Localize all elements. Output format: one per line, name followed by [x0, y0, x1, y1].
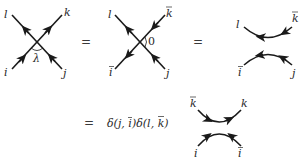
arrow-icon: [50, 56, 55, 62]
arrow-icon: [153, 23, 158, 29]
diagram-canvas: l k i j λ = l k i j 0 = l k: [0, 0, 304, 160]
arrow-icon: [45, 28, 50, 33]
label-k: k: [241, 97, 248, 110]
two-arc-diagram-2: k k i i: [190, 97, 248, 160]
label-j: j: [289, 67, 296, 80]
bottom-arc: [198, 134, 241, 146]
equals-sign: =: [193, 35, 203, 49]
delta-product: δ(j, i)δ(l, k): [107, 117, 169, 130]
angle-label-zero: 0: [148, 35, 155, 48]
arrow-icon: [259, 37, 264, 38]
label-ibar: i: [238, 147, 242, 160]
label-kbar: k: [190, 97, 197, 110]
label-ibar: i: [238, 66, 242, 79]
label-l: l: [236, 18, 240, 31]
arrow-icon: [283, 31, 287, 34]
label-i: i: [4, 66, 8, 79]
equals-sign: =: [81, 35, 91, 49]
arrow-icon: [24, 28, 29, 34]
equals-sign: =: [84, 116, 94, 130]
label-i: i: [194, 147, 198, 160]
label-k: k: [64, 6, 71, 19]
arrow-icon: [258, 55, 263, 56]
two-arc-diagram-1: l k i j: [236, 12, 299, 80]
label-kbar: k: [166, 7, 173, 20]
angle-arc-icon: [31, 48, 43, 51]
arrow-icon: [153, 56, 158, 62]
angle-arc-icon: [145, 37, 147, 47]
vertex-diagram-lambda: l k i j λ: [4, 6, 71, 80]
label-ibar: i: [109, 66, 113, 79]
arrow-icon: [226, 119, 231, 121]
label-l: l: [4, 8, 8, 21]
delta-formula: δ(j, i)δ(l, k): [107, 117, 169, 131]
arrow-icon: [19, 57, 24, 62]
label-l: l: [108, 8, 112, 21]
vertex-diagram-zero: l k i j 0: [108, 7, 173, 80]
arrow-icon: [127, 51, 132, 57]
label-kbar: k: [292, 12, 299, 25]
arrow-icon: [127, 28, 132, 34]
top-arc: [198, 110, 241, 122]
angle-label-lambda: λ: [32, 52, 40, 65]
